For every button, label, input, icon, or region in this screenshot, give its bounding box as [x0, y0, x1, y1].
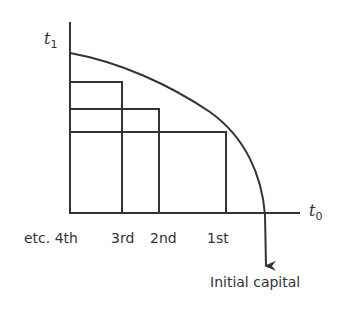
tick-label-4th: etc. 4th — [24, 230, 78, 246]
tick-label-1st: 1st — [207, 230, 229, 246]
diagram-canvas: t1 t0 etc. 4th 3rd 2nd 1st Initial capit… — [0, 0, 348, 313]
x-axis-label: t0 — [309, 201, 322, 223]
rect-3rd — [70, 109, 159, 213]
rect-2nd — [70, 132, 226, 213]
curve-label: Initial capital — [210, 274, 300, 290]
rect-4th — [70, 82, 122, 213]
y-axis-label: t1 — [44, 29, 57, 51]
tick-label-2nd: 2nd — [150, 230, 177, 246]
tick-label-3rd: 3rd — [111, 230, 134, 246]
